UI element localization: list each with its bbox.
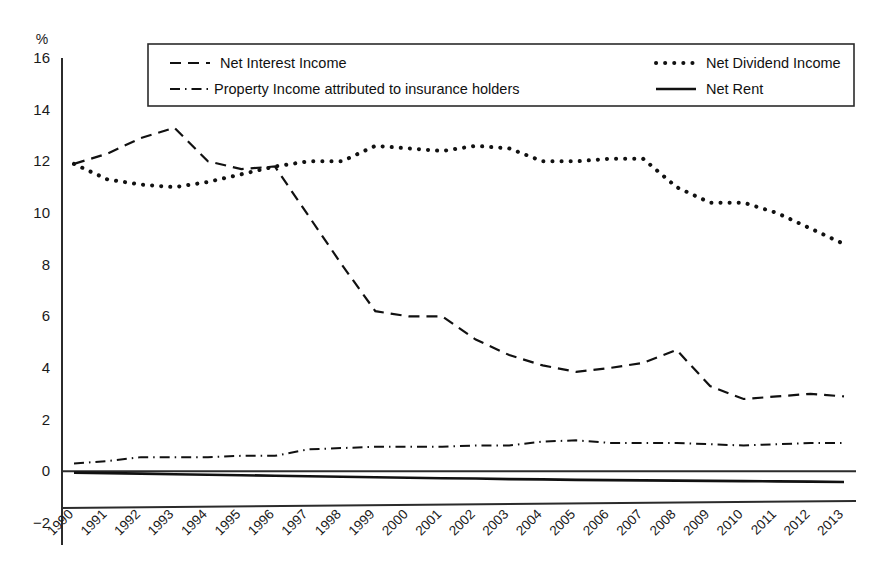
y-tick-label: 12 (33, 152, 50, 169)
x-tick-label: 1998 (312, 507, 344, 539)
x-tick-label: 1996 (245, 507, 277, 539)
x-tick-label: 2005 (546, 507, 578, 539)
y-tick-label: 10 (33, 204, 50, 221)
x-tick-label: 2001 (413, 507, 445, 539)
x-tick-label: 1997 (279, 507, 311, 539)
x-axis: 1990199119921993199419951996199719981999… (44, 501, 856, 538)
x-tick-label: 2002 (446, 507, 478, 539)
legend-label: Property Income attributed to insurance … (214, 81, 519, 97)
x-tick-label: 1992 (111, 507, 143, 539)
x-tick-label: 2006 (580, 507, 612, 539)
y-tick-label: 16 (33, 49, 50, 66)
legend-label: Net Dividend Income (706, 55, 841, 71)
series-line-net-rent (74, 473, 844, 482)
x-tick-label: 2013 (814, 507, 846, 539)
x-tick-label: 2007 (613, 507, 645, 539)
x-tick-label: 1999 (346, 507, 378, 539)
series-line-property-income-attributed-to-insurance-holders (74, 440, 844, 463)
y-tick-label: 14 (33, 101, 50, 118)
x-tick-label: 2009 (680, 507, 712, 539)
x-tick-label: 2012 (781, 507, 813, 539)
x-tick-label: 2010 (714, 507, 746, 539)
y-axis-unit-label: % (36, 31, 48, 47)
legend-label: Net Rent (706, 81, 763, 97)
x-tick-label: 2004 (513, 506, 545, 538)
x-tick-label: 2003 (479, 507, 511, 539)
y-tick-label: 0 (42, 462, 50, 479)
x-tick-label: 2011 (748, 507, 779, 538)
chart-container: %1614121086420−2 19901991199219931994199… (0, 0, 895, 574)
y-tick-label: 2 (42, 411, 50, 428)
y-tick-label: 6 (42, 307, 50, 324)
line-chart: %1614121086420−2 19901991199219931994199… (0, 0, 895, 574)
chart-legend: Net Interest IncomeNet Dividend IncomePr… (148, 44, 854, 106)
y-tick-label: 4 (42, 359, 50, 376)
series-line-net-dividend-income (74, 146, 844, 244)
y-tick-label: 8 (42, 256, 50, 273)
series-layer (74, 128, 844, 482)
x-tick-label: 1990 (44, 507, 76, 539)
x-tick-label: 1994 (178, 506, 210, 538)
x-tick-label: 2000 (379, 507, 411, 539)
series-line-net-interest-income (74, 128, 844, 399)
x-tick-label: 1993 (145, 507, 177, 539)
y-axis: %1614121086420−2 (33, 31, 856, 545)
x-tick-label: 1991 (78, 507, 110, 539)
x-tick-label: 2008 (647, 507, 679, 539)
legend-label: Net Interest Income (220, 55, 347, 71)
x-axis-line (62, 501, 856, 508)
x-tick-label: 1995 (212, 507, 244, 539)
